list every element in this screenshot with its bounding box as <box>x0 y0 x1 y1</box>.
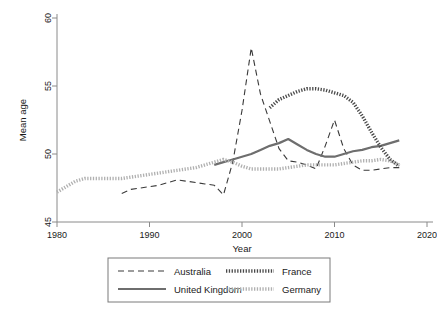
legend-label-united-kingdom: United Kingdom <box>174 284 242 295</box>
x-tick-label: 2020 <box>417 230 437 240</box>
x-axis-title: Year <box>232 243 251 254</box>
x-tick-label: 2010 <box>324 230 344 240</box>
legend-label-france: France <box>282 266 312 277</box>
x-tick-label: 2000 <box>232 230 252 240</box>
legend-label-germany: Germany <box>282 284 321 295</box>
series-line-germany <box>57 159 399 192</box>
x-tick-label: 1980 <box>47 230 67 240</box>
chart-figure: 4550556019801990200020102020YearMean age… <box>0 0 437 312</box>
y-tick-label: 60 <box>43 13 53 23</box>
y-tick-label: 50 <box>43 149 53 159</box>
line-chart-canvas: 4550556019801990200020102020YearMean age… <box>0 0 437 312</box>
y-tick-label: 55 <box>43 81 53 91</box>
legend-label-australia: Australia <box>174 266 212 277</box>
y-axis-title: Mean age <box>17 99 28 141</box>
y-tick-label: 45 <box>43 217 53 227</box>
series-line-france <box>270 89 400 167</box>
x-tick-label: 1990 <box>139 230 159 240</box>
